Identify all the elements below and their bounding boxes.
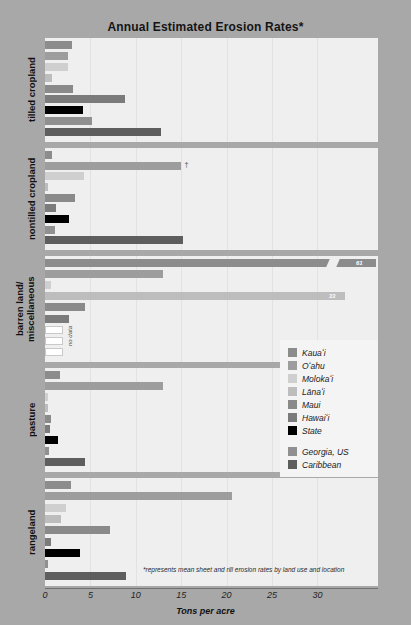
bar-group: † xyxy=(45,148,378,250)
category-label: nontilled cropland xyxy=(26,148,42,250)
bar xyxy=(45,504,66,512)
axis-break xyxy=(326,259,340,267)
gridline xyxy=(272,256,273,362)
bar xyxy=(45,315,69,323)
bar xyxy=(45,393,48,401)
bar xyxy=(45,515,61,523)
bar xyxy=(45,447,49,455)
bar xyxy=(45,458,85,466)
legend-label: Oʻahu xyxy=(302,361,325,371)
bar xyxy=(45,538,51,546)
bar xyxy=(45,215,69,223)
bar xyxy=(45,526,110,534)
bar xyxy=(45,172,84,180)
bar-value-label: 61 xyxy=(356,259,363,267)
bar xyxy=(45,52,68,60)
legend-label: Kauaʻi xyxy=(302,348,326,358)
gridline xyxy=(272,38,273,142)
no-data-label: no data xyxy=(67,326,74,346)
tick-label: 5 xyxy=(88,590,93,600)
gridline xyxy=(317,148,318,250)
legend-swatch xyxy=(288,460,297,469)
tick-label: 15 xyxy=(176,590,186,600)
legend-swatch xyxy=(288,374,297,383)
bar xyxy=(45,151,52,159)
category-label: barren land/ miscellaneous xyxy=(14,256,42,362)
bar xyxy=(45,259,376,267)
bar xyxy=(45,303,85,311)
bar xyxy=(45,292,345,300)
gridline xyxy=(181,38,182,142)
legend-item[interactable]: Georgia, US xyxy=(288,445,378,458)
legend-swatch xyxy=(288,413,297,422)
bar xyxy=(45,226,55,234)
bar xyxy=(45,371,60,379)
tick-label: 10 xyxy=(131,590,141,600)
legend-swatch xyxy=(288,348,297,357)
bar xyxy=(45,382,163,390)
legend: KauaʻiOʻahuMolokaʻiLānaʻiMauiHawaiʻiStat… xyxy=(280,340,378,477)
tick-label: 25 xyxy=(267,590,277,600)
bar xyxy=(45,117,92,125)
bar xyxy=(45,481,71,489)
bar xyxy=(45,194,75,202)
bar xyxy=(45,415,51,423)
bar xyxy=(45,560,48,568)
legend-label: Caribbean xyxy=(302,460,341,470)
legend-swatch xyxy=(288,400,297,409)
legend-swatch xyxy=(288,426,297,435)
legend-item[interactable]: Lānaʻi xyxy=(288,385,378,398)
bar xyxy=(45,106,83,114)
tick-label: 0 xyxy=(42,590,47,600)
gridline xyxy=(272,368,273,472)
gridline xyxy=(181,148,182,250)
tick-label: 20 xyxy=(222,590,232,600)
gridline xyxy=(181,256,182,362)
gridline xyxy=(90,38,91,142)
bar xyxy=(45,492,232,500)
page-title: Annual Estimated Erosion Rates* xyxy=(0,20,411,34)
bar xyxy=(45,183,48,191)
bar-no-data xyxy=(45,337,63,345)
erosion-rates-chart: Annual Estimated Erosion Rates* †6133no … xyxy=(0,0,411,625)
bar xyxy=(45,128,161,136)
bar-group xyxy=(45,38,378,142)
dagger-marker: † xyxy=(184,161,188,169)
legend-label: Lānaʻi xyxy=(302,387,325,397)
tick-label: 30 xyxy=(312,590,322,600)
bar xyxy=(45,162,181,170)
bar xyxy=(45,572,126,580)
legend-item[interactable]: State xyxy=(288,424,378,437)
legend-label: Maui xyxy=(302,400,320,410)
bar-no-data xyxy=(45,326,63,334)
legend-item[interactable]: Oʻahu xyxy=(288,359,378,372)
legend-item[interactable]: Molokaʻi xyxy=(288,372,378,385)
legend-label: Georgia, US xyxy=(302,447,349,457)
gridline xyxy=(227,256,228,362)
gridline xyxy=(227,38,228,142)
category-label: tilled cropland xyxy=(26,38,42,142)
bar xyxy=(45,95,125,103)
bar xyxy=(45,74,52,82)
bar xyxy=(45,63,68,71)
bar xyxy=(45,425,50,433)
gridline xyxy=(181,368,182,472)
legend-item[interactable]: Hawaiʻi xyxy=(288,411,378,424)
gridline xyxy=(272,148,273,250)
bar xyxy=(45,549,80,557)
bar xyxy=(45,41,72,49)
bar xyxy=(45,404,48,412)
bar-no-data xyxy=(45,348,63,356)
legend-item[interactable]: Maui xyxy=(288,398,378,411)
bar xyxy=(45,204,56,212)
gridline xyxy=(227,148,228,250)
bar xyxy=(45,85,73,93)
legend-swatch xyxy=(288,447,297,456)
gridline xyxy=(317,38,318,142)
legend-item[interactable]: Kauaʻi xyxy=(288,346,378,359)
legend-swatch xyxy=(288,361,297,370)
category-label: rangeland xyxy=(26,478,42,586)
bar xyxy=(45,236,183,244)
x-axis-line xyxy=(45,588,378,589)
legend-item[interactable]: Caribbean xyxy=(288,458,378,471)
